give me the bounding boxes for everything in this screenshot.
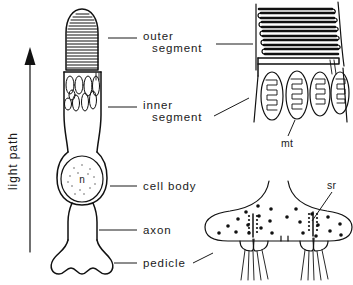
leader-inner-segment-right xyxy=(214,98,249,116)
light-path-label: light path xyxy=(6,132,20,190)
label-inner-segment-line2: segment xyxy=(152,111,202,123)
inset-inner-segment-detail: mt xyxy=(254,68,349,149)
mitochondrion-2 xyxy=(286,71,308,119)
figure-root: light path xyxy=(0,0,353,285)
postsynaptic-processes-right xyxy=(300,238,328,280)
label-axon: axon xyxy=(143,224,172,236)
label-sr: sr xyxy=(327,179,337,191)
inner-segment-mitochondria xyxy=(65,76,100,111)
mitochondrion-1 xyxy=(261,72,283,120)
inset-outer-segment-detail xyxy=(256,2,344,76)
light-path-arrow xyxy=(25,47,36,252)
synaptic-vesicles-left xyxy=(217,204,274,235)
outer-segment-discs xyxy=(67,14,98,68)
label-pedicle: pedicle xyxy=(143,257,186,269)
nucleus-label: n xyxy=(79,174,85,185)
label-inner-segment-line1: inner xyxy=(143,99,173,111)
outer-segment-shape xyxy=(66,9,98,70)
label-mt: mt xyxy=(281,137,293,149)
cell-body-shape: n xyxy=(57,152,107,205)
mitochondrion-3 xyxy=(310,72,330,116)
pedicle-shape xyxy=(51,240,113,274)
axon-shape xyxy=(68,203,97,240)
leader-pedicle-right xyxy=(193,253,213,263)
leader-mt xyxy=(288,120,295,136)
postsynaptic-processes-left xyxy=(240,239,268,280)
mitochondrion-4 xyxy=(331,72,349,114)
inset-pedicle-detail: sr xyxy=(205,179,352,280)
label-cell-body: cell body xyxy=(143,180,197,192)
label-outer-segment-line1: outer xyxy=(143,30,174,42)
label-outer-segment-line2: segment xyxy=(152,42,202,54)
photoreceptor-diagram: light path xyxy=(0,0,353,285)
